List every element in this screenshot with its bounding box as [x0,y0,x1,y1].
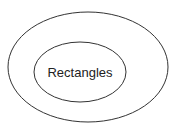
venn-diagram: Rectangles [0,0,178,129]
inner-set-label: Rectangles [47,65,113,80]
